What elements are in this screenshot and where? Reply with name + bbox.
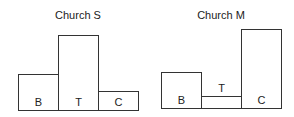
church-s-label-b: B — [18, 96, 59, 108]
church-m-bar-t — [201, 96, 242, 109]
church-s-label-t: T — [58, 96, 99, 108]
church-s-label-c: C — [98, 96, 139, 108]
church-s-title: Church S — [18, 9, 138, 21]
church-m-title: Church M — [161, 9, 281, 21]
church-m-label-c: C — [241, 94, 282, 106]
church-m-label-t: T — [201, 82, 242, 94]
church-m-label-b: B — [161, 94, 202, 106]
